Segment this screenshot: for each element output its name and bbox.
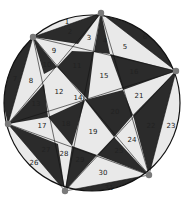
region-label: 8 (29, 77, 33, 85)
region-label: 27 (42, 146, 51, 154)
region-label: 5 (123, 43, 127, 51)
region-label: 4 (103, 37, 108, 45)
region-label: 10 (43, 61, 52, 69)
region-label: 3 (87, 34, 91, 42)
vertex-dot (30, 34, 36, 40)
region-label: 9 (52, 47, 56, 55)
region-label: 14 (74, 94, 83, 102)
region-label: 12 (55, 88, 64, 96)
region-label: 29 (76, 156, 85, 164)
region-label: 28 (60, 150, 69, 158)
region-label: 18 (62, 120, 71, 128)
region-label: 6 (143, 33, 148, 41)
region-label: 24 (128, 136, 137, 144)
region-label: 30 (99, 169, 108, 177)
region-label: 26 (30, 159, 39, 167)
region-label: 16 (130, 68, 139, 76)
vertex-dot (62, 188, 68, 194)
region-label: 31 (105, 184, 114, 192)
region-label: 2 (68, 28, 72, 36)
vertex-dot (146, 172, 152, 178)
region-label: 1 (65, 18, 69, 26)
region-label: 17 (38, 122, 47, 130)
chord-diagram: 1234567891011121314151617181920212223242… (0, 0, 188, 200)
region-label: 15 (100, 72, 109, 80)
region-label: 25 (115, 147, 124, 155)
vertex-dot (98, 10, 104, 16)
region-label: 13 (32, 100, 41, 108)
region-label: 19 (89, 128, 98, 136)
region-label: 7 (13, 75, 17, 83)
region-label: 21 (135, 92, 144, 100)
vertex-dot (173, 68, 179, 74)
vertex-dot (5, 121, 11, 127)
region-label: 11 (73, 62, 82, 70)
region-label: 22 (147, 122, 156, 130)
region-label: 20 (111, 108, 120, 116)
region-label: 23 (167, 122, 176, 130)
